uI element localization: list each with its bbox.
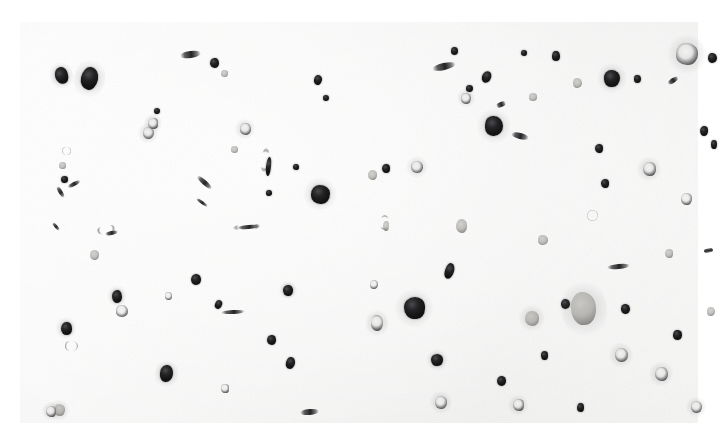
page-block bbox=[23, 255, 63, 299]
specimen-particle bbox=[466, 85, 473, 92]
page-block-fade bbox=[266, 141, 305, 186]
page-block-fade bbox=[507, 82, 545, 128]
page-block bbox=[460, 25, 499, 75]
specimen-particle bbox=[65, 341, 78, 351]
particle-core bbox=[634, 75, 641, 83]
page-block-fade bbox=[362, 255, 398, 299]
particle-core bbox=[191, 274, 201, 285]
page-block bbox=[120, 140, 157, 185]
page-block bbox=[555, 141, 592, 190]
particle-core bbox=[485, 116, 503, 136]
page-block bbox=[603, 198, 639, 242]
particle-core bbox=[673, 330, 682, 340]
page-block-fade bbox=[507, 25, 543, 69]
specimen-particle bbox=[655, 367, 668, 381]
specimen-particle bbox=[52, 65, 69, 85]
particle-core bbox=[59, 162, 66, 169]
page-block-fade bbox=[312, 26, 349, 76]
page-block bbox=[217, 312, 253, 357]
specimen-particle bbox=[513, 399, 524, 411]
specimen-particle bbox=[90, 250, 99, 260]
particle-core bbox=[604, 70, 620, 87]
page-block bbox=[71, 255, 107, 299]
page-block bbox=[653, 256, 690, 305]
specimen-particle bbox=[370, 280, 378, 289]
page-block bbox=[168, 27, 206, 71]
specimen-particle bbox=[521, 50, 527, 56]
page-block-fade bbox=[653, 256, 690, 305]
page-block-fade bbox=[653, 83, 690, 131]
particle-core bbox=[665, 249, 673, 258]
page-block-fade bbox=[120, 140, 157, 185]
page-block-fade bbox=[70, 198, 109, 244]
particle-core bbox=[461, 93, 471, 104]
page-block-fade bbox=[411, 83, 448, 133]
page-block bbox=[410, 198, 448, 243]
page-block-fade bbox=[362, 84, 402, 133]
specimen-particle bbox=[615, 348, 628, 362]
page-block bbox=[604, 370, 644, 415]
specimen-particle bbox=[711, 140, 717, 149]
page-block-fade bbox=[314, 83, 350, 128]
particle-core bbox=[240, 123, 251, 135]
page-block-fade bbox=[168, 27, 206, 71]
page-block-fade bbox=[652, 198, 692, 247]
specimen-particle bbox=[634, 75, 641, 83]
page-block-fade bbox=[603, 198, 639, 242]
page-block bbox=[23, 141, 60, 185]
specimen-particle bbox=[165, 292, 172, 300]
page-block bbox=[264, 198, 303, 244]
page-block-fade bbox=[22, 83, 61, 132]
particle-core bbox=[525, 311, 539, 326]
specimen-particle bbox=[411, 161, 423, 173]
page-block-fade bbox=[23, 197, 60, 243]
particle-core bbox=[538, 235, 548, 245]
specimen-particle bbox=[435, 396, 447, 409]
particle-core bbox=[382, 164, 390, 173]
specimen-particle bbox=[703, 247, 713, 253]
page-block-fade bbox=[554, 197, 591, 244]
page-block bbox=[23, 313, 61, 359]
specimen-particle bbox=[191, 274, 201, 285]
specimen-particle bbox=[323, 95, 329, 101]
specimen-particle bbox=[541, 351, 548, 360]
particle-core bbox=[148, 118, 158, 129]
page-block-fade bbox=[70, 370, 108, 418]
particle-core bbox=[521, 50, 527, 56]
specimen-particle bbox=[691, 401, 702, 413]
specimen-particle bbox=[267, 335, 276, 345]
particle-core bbox=[435, 396, 447, 409]
page-block bbox=[653, 83, 690, 131]
scanned-sheet bbox=[20, 22, 698, 423]
page-block-fade bbox=[23, 255, 63, 299]
page-block-fade bbox=[555, 141, 592, 190]
page-block-fade bbox=[71, 255, 107, 299]
page-block bbox=[457, 370, 494, 416]
particle-core bbox=[370, 280, 378, 289]
particle-core bbox=[573, 78, 582, 88]
specimen-particle bbox=[601, 179, 609, 188]
specimen-particle bbox=[404, 297, 425, 319]
specimen-particle bbox=[46, 406, 56, 417]
particle-core bbox=[601, 179, 609, 188]
particle-core bbox=[691, 401, 702, 413]
specimen-particle bbox=[78, 65, 99, 91]
page-block-fade bbox=[460, 25, 499, 75]
page-block bbox=[362, 255, 398, 299]
page-block-fade bbox=[169, 312, 209, 357]
specimen-particle bbox=[529, 93, 537, 101]
particle-core bbox=[90, 250, 99, 260]
particle-core bbox=[643, 162, 656, 176]
particle-core bbox=[210, 58, 219, 68]
page-block bbox=[70, 198, 109, 244]
particle-core bbox=[266, 190, 272, 196]
page-block bbox=[507, 25, 543, 69]
specimen-particle bbox=[621, 304, 630, 314]
particle-core bbox=[231, 146, 238, 153]
page-block bbox=[556, 83, 595, 127]
specimen-particle bbox=[59, 162, 66, 169]
page-block-fade bbox=[459, 140, 499, 185]
page-block bbox=[120, 197, 157, 241]
particle-core bbox=[371, 315, 383, 331]
page-block bbox=[555, 25, 595, 72]
